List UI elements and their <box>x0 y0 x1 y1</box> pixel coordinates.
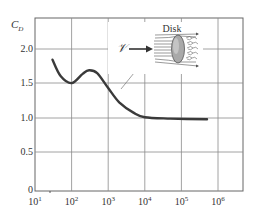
y-axis-label: CD <box>11 18 23 33</box>
origin-mark <box>49 191 51 193</box>
y-tick-labels: 2.0 1.5 1.0 0.5 0 <box>21 43 34 195</box>
x-tick-10-5: 105 <box>175 195 189 207</box>
y-tick-2.0: 2.0 <box>21 43 34 54</box>
y-tick-1.0: 1.0 <box>21 112 34 123</box>
x-tick-labels: 101 102 103 104 105 106 <box>28 195 225 207</box>
y-tick-1.5: 1.5 <box>21 77 34 88</box>
x-tick-10-4: 104 <box>138 195 152 207</box>
disk-inset: Disk 𝒱 <box>108 22 203 74</box>
x-tick-10-3: 103 <box>101 195 115 207</box>
disk-label: Disk <box>163 23 182 34</box>
x-tick-10-1: 101 <box>28 195 42 207</box>
disk-highlight <box>173 38 179 54</box>
y-tick-0.5: 0.5 <box>21 146 34 157</box>
drag-coefficient-chart: CD 2.0 1.5 1.0 0.5 0 101 102 103 104 105… <box>0 0 256 219</box>
y-tick-0: 0 <box>28 184 33 195</box>
x-tick-10-2: 102 <box>65 195 79 207</box>
x-tick-10-6: 106 <box>211 195 225 207</box>
